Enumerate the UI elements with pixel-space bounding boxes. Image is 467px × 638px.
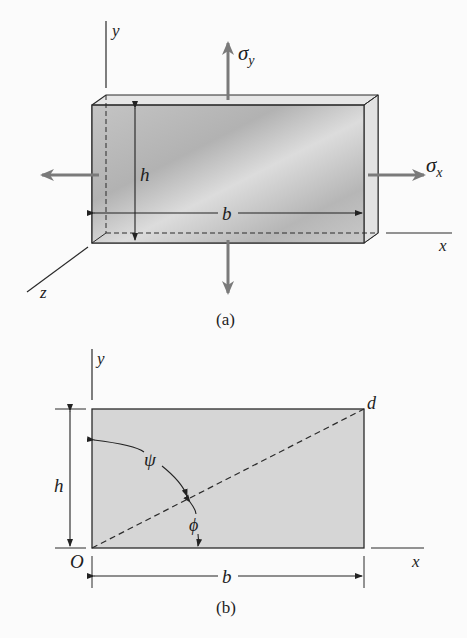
angle-phi-arc [198,534,199,546]
angle-psi-label: ψ [144,449,157,470]
figure-b: y x h b ψ ϕ O d (b) [54,349,424,617]
y-axis-label-a: y [110,21,120,40]
origin-label: O [70,551,84,572]
caption-a: (a) [216,310,235,329]
plate-side-face [364,95,378,243]
angle-phi-label: ϕ [189,515,198,535]
y-axis-label-b: y [95,349,105,368]
figure-a: y x z h b σy σx (a) [27,21,452,329]
z-axis-label-a: z [39,283,47,302]
stress-y-label: σy [238,41,255,68]
stress-x-label: σx [426,153,443,180]
height-label-a: h [140,164,150,185]
z-axis-a [27,247,88,292]
x-axis-label-b: x [411,552,420,571]
width-label-b: b [222,566,232,587]
height-label-b: h [54,475,64,496]
x-axis-label-a: x [438,236,447,255]
caption-b: (b) [216,598,236,617]
width-label-a: b [222,203,232,224]
corner-d-label: d [367,393,377,413]
figure-canvas: y x z h b σy σx (a) [0,0,467,638]
